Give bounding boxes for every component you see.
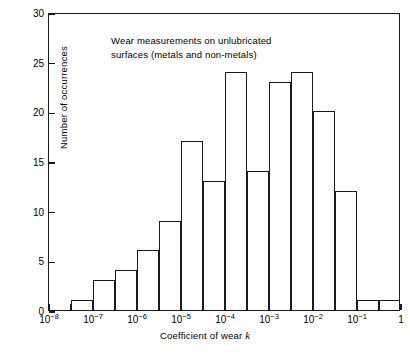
x-tick-mark (290, 304, 291, 310)
histogram-bar (137, 250, 159, 310)
x-tick-label: 10−3 (259, 314, 279, 326)
x-tick-label: 10−7 (83, 314, 103, 326)
x-tick-mark (158, 304, 159, 310)
x-tick-mark (92, 304, 93, 310)
x-tick-mark (334, 304, 335, 310)
x-tick-mark (268, 304, 269, 310)
x-axis-label-text: Coefficient of wear (160, 330, 245, 341)
x-axis-label-variable: k (245, 330, 250, 341)
plot-area: Wear measurements on unlubricated surfac… (48, 13, 400, 311)
x-tick-mark (136, 304, 137, 310)
histogram-bars (49, 14, 399, 310)
y-axis-label: Number of occurrences (58, 13, 69, 183)
x-tick-mark (180, 304, 181, 310)
histogram-figure: Wear measurements on unlubricated surfac… (0, 0, 410, 354)
y-tick-mark (49, 113, 55, 114)
x-tick-mark (400, 304, 401, 310)
y-tick-label: 15 (33, 156, 44, 170)
x-tick-mark (356, 304, 357, 310)
y-tick-label: 10 (33, 206, 44, 220)
y-tick-label: 20 (33, 106, 44, 120)
histogram-bar (225, 72, 247, 310)
x-tick-mark (246, 304, 247, 310)
x-tick-mark (70, 304, 71, 310)
y-tick-label: 5 (38, 255, 44, 269)
y-tick-mark (49, 13, 55, 14)
x-tick-mark (114, 304, 115, 310)
x-tick-label: 10−4 (215, 314, 235, 326)
y-tick-label: 30 (33, 7, 44, 21)
histogram-bar (71, 300, 93, 310)
y-tick-mark (49, 212, 55, 213)
x-tick-mark (202, 304, 203, 310)
x-tick-label: 10−8 (39, 314, 59, 326)
histogram-bar (269, 82, 291, 310)
histogram-bar (291, 72, 313, 310)
y-tick-mark (49, 262, 55, 263)
y-tick-label: 25 (33, 57, 44, 71)
x-tick-label: 10−5 (171, 314, 191, 326)
histogram-bar (379, 300, 399, 310)
histogram-bar (159, 221, 181, 310)
histogram-bar (247, 171, 269, 310)
histogram-bar (93, 280, 115, 310)
x-tick-mark (48, 304, 49, 310)
y-tick-mark (49, 63, 55, 64)
x-axis-label: Coefficient of wear k (0, 330, 410, 341)
x-tick-mark (312, 304, 313, 310)
x-tick-mark (224, 304, 225, 310)
histogram-bar (181, 141, 203, 310)
histogram-bar (203, 181, 225, 310)
y-tick-mark (49, 162, 55, 163)
x-tick-mark (378, 304, 379, 310)
histogram-bar (115, 270, 137, 310)
histogram-bar (335, 191, 357, 310)
x-tick-label: 10−6 (127, 314, 147, 326)
histogram-bar (313, 111, 335, 310)
x-tick-label: 10−2 (303, 314, 323, 326)
x-tick-label: 10−1 (347, 314, 367, 326)
x-tick-label: 1 (398, 314, 404, 326)
histogram-bar (357, 300, 379, 310)
